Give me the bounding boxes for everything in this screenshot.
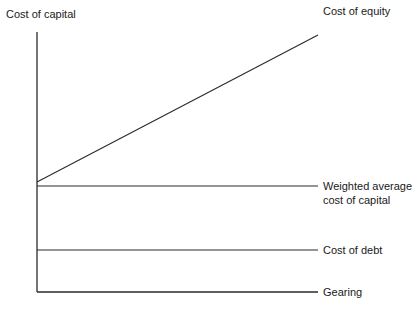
cost-of-debt-label: Cost of debt bbox=[323, 243, 382, 257]
x-axis-label: Gearing bbox=[323, 285, 362, 299]
wacc-label-line2: cost of capital bbox=[323, 193, 412, 207]
wacc-label-line1: Weighted average bbox=[323, 179, 412, 193]
wacc-label: Weighted average cost of capital bbox=[323, 179, 412, 207]
chart-canvas bbox=[0, 0, 419, 315]
cost-of-equity-line bbox=[37, 35, 318, 182]
y-axis-label: Cost of capital bbox=[6, 7, 76, 21]
cost-of-equity-label: Cost of equity bbox=[323, 4, 390, 18]
